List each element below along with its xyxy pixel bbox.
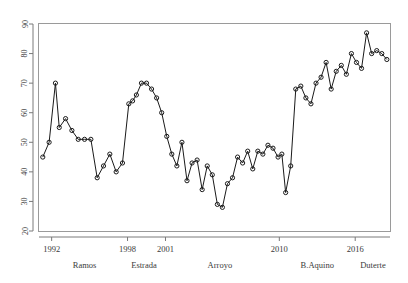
y-tick-label: 30 xyxy=(21,197,30,205)
y-tick-label: 60 xyxy=(21,109,30,117)
era-label: Duterte xyxy=(360,260,386,270)
era-label: B.Aquino xyxy=(301,260,334,270)
era-label: Ramos xyxy=(73,260,97,270)
y-tick-label: 50 xyxy=(21,138,30,146)
y-tick-label: 90 xyxy=(21,20,30,28)
y-tick-label: 20 xyxy=(21,227,30,235)
era-label: Estrada xyxy=(131,260,157,270)
x-tick-label: 2010 xyxy=(271,244,288,254)
rating-time-series-chart: 2030405060708090 19921998200120102016 Ra… xyxy=(0,0,408,283)
x-tick-label: 2016 xyxy=(347,244,364,254)
y-tick-label: 80 xyxy=(21,50,30,58)
x-tick-label: 1992 xyxy=(43,244,60,254)
y-tick-label: 70 xyxy=(21,79,30,87)
y-tick-label: 40 xyxy=(21,168,30,176)
chart-container: 2030405060708090 19921998200120102016 Ra… xyxy=(0,0,408,283)
x-tick-label: 1998 xyxy=(119,244,136,254)
chart-background xyxy=(0,0,408,283)
x-tick-label: 2001 xyxy=(157,244,174,254)
era-label: Arroyo xyxy=(208,260,233,270)
